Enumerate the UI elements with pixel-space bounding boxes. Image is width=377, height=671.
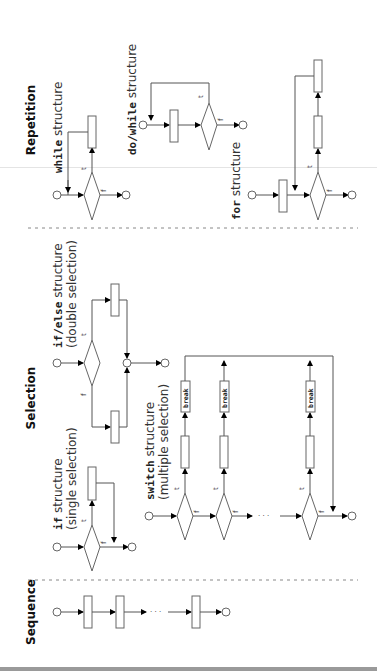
true-label: t: [306, 165, 314, 168]
true-action-rect: [111, 284, 119, 316]
ellipsis: · · ·: [150, 608, 161, 616]
section-label-repetition: Repetition: [24, 85, 38, 156]
start-circle: [53, 359, 61, 367]
true-label: t: [173, 487, 181, 490]
end-circle: [161, 359, 169, 367]
control-structures-diagram: Repetition Selection Sequence while stru…: [0, 0, 377, 671]
false-action-rect: [111, 411, 119, 443]
if-subcaption: (single selection): [65, 427, 79, 530]
false-label: f: [232, 510, 240, 513]
false-label: f: [318, 510, 326, 513]
true-label: t: [80, 519, 88, 522]
action-rect: [170, 110, 178, 142]
while-structure: while structure t f: [51, 82, 130, 220]
merge-circle: [123, 359, 131, 367]
false-label: f: [193, 510, 201, 513]
true-label: t: [212, 487, 220, 490]
start-circle: [139, 121, 147, 129]
switch-structure: switch structure (multiple selection) br…: [143, 356, 356, 540]
break-label: break: [182, 388, 190, 408]
action-rect: [88, 116, 96, 148]
action-rect: [88, 467, 96, 500]
for-caption: for structure: [229, 142, 243, 220]
action-rect: [192, 596, 200, 628]
ellipsis: · · ·: [258, 512, 269, 520]
if-caption: if structure: [51, 458, 65, 530]
decision-diamond: [310, 172, 326, 220]
decision-diamond: [84, 172, 100, 220]
while-caption: while structure: [51, 82, 65, 173]
case-action-rect: [306, 436, 314, 468]
bottom-edge-bar: [0, 667, 377, 671]
decision-diamond: [84, 525, 100, 571]
end-circle: [239, 121, 247, 129]
section-label-selection: Selection: [24, 367, 38, 430]
action-rect: [84, 596, 92, 628]
end-circle: [222, 608, 230, 616]
true-label: t: [298, 487, 306, 490]
increment-rect: [314, 60, 322, 92]
case-diamond: [302, 493, 318, 540]
switch-subcaption: (multiple selection): [157, 384, 171, 500]
if-else-caption: if/else structure: [51, 243, 65, 348]
do-while-structure: do/while structure t f: [125, 44, 247, 155]
end-circle: [122, 191, 130, 199]
if-structure: if structure (single selection) t f: [51, 427, 136, 571]
false-label: f: [80, 393, 88, 396]
start-circle: [248, 191, 256, 199]
true-label: t: [197, 95, 205, 98]
false-label: f: [100, 189, 108, 192]
true-label: t: [80, 333, 88, 336]
end-circle: [348, 512, 356, 520]
case-action-rect: [181, 436, 189, 468]
action-rect: [116, 596, 124, 628]
end-circle: [128, 543, 136, 551]
if-else-subcaption: (double selection): [65, 240, 79, 348]
switch-caption: switch structure: [143, 402, 157, 500]
break-label: break: [221, 388, 229, 408]
true-label: t: [80, 167, 88, 170]
start-circle: [53, 543, 61, 551]
false-label: f: [326, 189, 334, 192]
init-rect: [279, 180, 287, 212]
decision-diamond: [201, 103, 217, 150]
false-label: f: [100, 541, 108, 544]
break-label: break: [307, 388, 315, 408]
section-label-sequence: Sequence: [24, 579, 38, 645]
case-diamond: [177, 493, 193, 540]
case-diamond: [216, 493, 232, 540]
end-circle: [348, 191, 356, 199]
for-structure: for structure t f: [229, 60, 356, 220]
decision-diamond: [84, 340, 100, 386]
start-circle: [145, 512, 153, 520]
body-rect: [314, 116, 322, 148]
sequence-structure: · · ·: [53, 596, 230, 628]
do-while-caption: do/while structure: [125, 44, 139, 155]
case-action-rect: [220, 436, 228, 468]
false-label: f: [217, 118, 225, 121]
start-circle: [53, 191, 61, 199]
start-circle: [53, 608, 61, 616]
